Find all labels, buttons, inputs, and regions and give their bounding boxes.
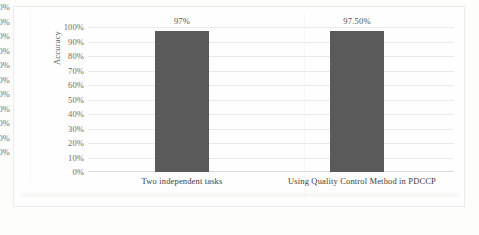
- y-axis-ticks: 100% 90% 80% 70% 60% 50% 40% 30% 20% 10%…: [0, 7, 10, 152]
- bar-value-label: 97%: [135, 16, 229, 26]
- gridline: [88, 56, 454, 57]
- gridline: [88, 42, 454, 43]
- y-axis-tick-label: 50%: [48, 96, 84, 105]
- x-axis-category-label: Using Quality Control Method in PDCCP: [272, 176, 452, 186]
- y-axis-tick-label: 80%: [48, 52, 84, 61]
- gridline: [88, 114, 454, 115]
- y-axis-tick-label: 40%: [0, 90, 10, 99]
- y-axis-tick-group: 100% 90% 80% 70% 60% 50% 40% 30% 20% 10%…: [44, 27, 84, 172]
- gridline: [88, 85, 454, 86]
- gridline: [88, 143, 454, 144]
- y-axis-tick-label: 20%: [0, 119, 10, 128]
- y-axis-tick-label: 70%: [0, 47, 10, 56]
- bar-using-quality-control-method-in-pdccp[interactable]: [330, 31, 384, 172]
- y-axis-tick-label: 0%: [0, 148, 10, 157]
- y-axis-tick-label: 70%: [48, 67, 84, 76]
- scan-artifact: [20, 193, 460, 197]
- gridline: [88, 100, 454, 101]
- y-axis-tick-label: 30%: [0, 105, 10, 114]
- gridline: [88, 71, 454, 72]
- bar-two-independent-tasks[interactable]: [155, 31, 209, 172]
- y-axis-tick-label: 100%: [0, 3, 10, 12]
- gridline: [88, 27, 454, 28]
- y-axis-tick-label: 100%: [48, 23, 84, 32]
- y-axis-tick-label: 20%: [48, 139, 84, 148]
- y-axis-tick-label: 80%: [0, 32, 10, 41]
- y-axis-tick-label: 40%: [48, 110, 84, 119]
- axis-baseline: [88, 171, 454, 172]
- y-axis-tick-label: 60%: [0, 61, 10, 70]
- y-axis-tick-label: 50%: [0, 76, 10, 85]
- gridline: [88, 158, 454, 159]
- plot-area: [88, 27, 454, 172]
- bar-value-label: 97.50%: [310, 16, 404, 26]
- y-axis-tick-label: 10%: [48, 154, 84, 163]
- y-axis-tick-label: 0%: [48, 168, 84, 177]
- chart-screenshot: 100% 90% 80% 70% 60% 50% 40% 30% 20% 10%…: [0, 0, 479, 235]
- y-axis-tick-label: 90%: [48, 38, 84, 47]
- y-axis-tick-label: 30%: [48, 125, 84, 134]
- scan-artifact: [30, 11, 31, 181]
- y-axis-tick-label: 10%: [0, 134, 10, 143]
- x-axis-category-label: Two independent tasks: [112, 176, 252, 186]
- gridline: [88, 129, 454, 130]
- y-axis-tick-label: 60%: [48, 81, 84, 90]
- y-axis-tick-label: 90%: [0, 18, 10, 27]
